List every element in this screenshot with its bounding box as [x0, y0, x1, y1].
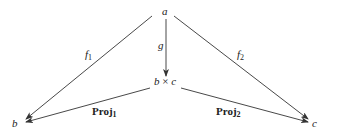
node-product: b × c: [154, 76, 176, 87]
label-f2: f2: [237, 49, 244, 62]
node-b: b: [12, 118, 18, 129]
node-c: c: [312, 118, 317, 129]
product-op: ×: [162, 75, 168, 87]
arrow-f1: [26, 16, 152, 119]
arrow-proj1: [26, 88, 150, 122]
label-f1: f1: [85, 49, 92, 62]
node-a: a: [162, 6, 168, 17]
label-g: g: [158, 40, 164, 51]
arrow-proj2: [181, 88, 308, 122]
label-proj1: Proj1: [92, 106, 117, 119]
product-left: b: [154, 75, 160, 87]
arrow-f2: [174, 16, 308, 119]
diagram-arrows: [0, 0, 338, 136]
label-proj2: Proj2: [216, 106, 241, 119]
product-right: c: [171, 75, 176, 87]
